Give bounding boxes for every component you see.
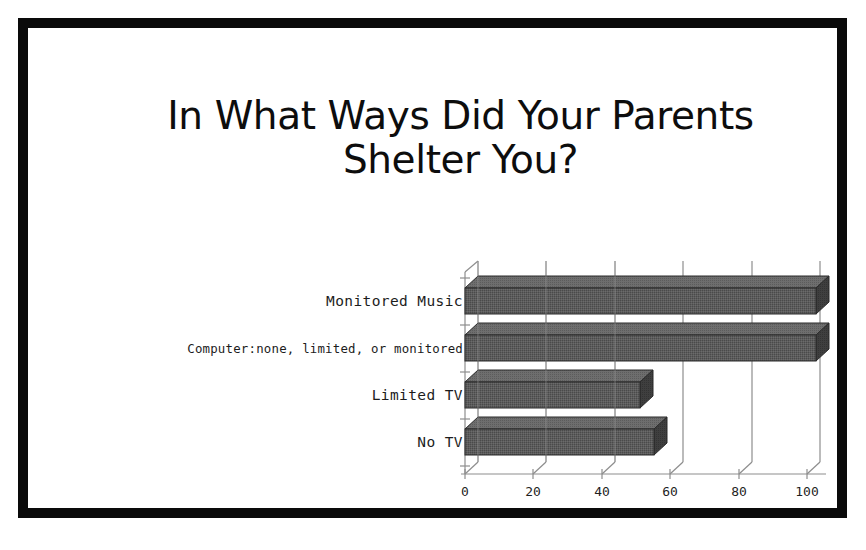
bar-limited-tv: [465, 370, 653, 408]
slide-border-frame: In What Ways Did Your Parents Shelter Yo…: [18, 18, 847, 518]
bar-computer: [465, 323, 829, 361]
page-title: In What Ways Did Your Parents Shelter Yo…: [56, 94, 865, 181]
slide-canvas: In What Ways Did Your Parents Shelter Yo…: [56, 56, 865, 536]
bar-monitored-music: [465, 276, 829, 314]
bar-chart: Monitored Music Computer:none, limited, …: [56, 206, 865, 506]
slide-root: In What Ways Did Your Parents Shelter Yo…: [0, 0, 866, 550]
plot-area: [56, 206, 865, 506]
bar-no-tv: [465, 417, 667, 455]
